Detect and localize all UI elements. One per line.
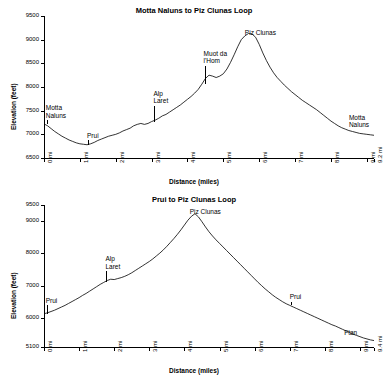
- elevation-profile-line: [44, 205, 374, 348]
- y-tick-label: 9000: [9, 217, 39, 223]
- x-tick-mark: [331, 159, 332, 162]
- y-axis-label: Elevation (feet): [10, 272, 17, 319]
- x-tick-mark: [44, 348, 45, 351]
- x-tick-mark: [152, 159, 153, 162]
- x-tick-mark: [295, 159, 296, 162]
- annotation-leader-line: [47, 120, 48, 124]
- x-tick-mark: [259, 159, 260, 162]
- annotation-leader-line: [205, 66, 206, 84]
- x-tick-mark: [325, 348, 326, 351]
- x-tick-mark: [374, 159, 375, 162]
- annotation-label: Piz Clunas: [190, 208, 221, 216]
- x-tick-mark: [80, 159, 81, 162]
- y-tick-label: 9500: [9, 201, 39, 207]
- annotation-label: Muot dal'Hom: [204, 50, 228, 65]
- x-axis-label: Distance (miles): [14, 367, 374, 374]
- chart-motta-naluns-loop: Motta Naluns to Piz Clunas Loop Elevatio…: [0, 0, 388, 189]
- annotation-leader-line: [154, 106, 155, 122]
- annotation-label: Prui: [87, 132, 99, 140]
- y-tick-label: 6500: [9, 154, 39, 160]
- annotation-label: MottaNaluns: [349, 114, 369, 129]
- x-tick-mark: [290, 348, 291, 351]
- chart-title: Prui to Piz Clunas Loop: [0, 195, 388, 204]
- annotation-label: Prui: [46, 297, 58, 305]
- x-tick-mark: [360, 348, 361, 351]
- x-axis-label: Distance (miles): [14, 178, 374, 185]
- annotation-label: AlpLaret: [105, 255, 120, 270]
- x-tick-mark: [79, 348, 80, 351]
- plot-area: 65007000750080008500900095000 mi1 mi2 mi…: [44, 16, 374, 158]
- y-tick-label: 5100: [9, 343, 39, 349]
- annotation-label: MottaNaluns: [46, 104, 66, 119]
- annotation-label: Ftan: [344, 329, 357, 337]
- x-tick-mark: [184, 348, 185, 351]
- x-tick-mark: [116, 159, 117, 162]
- x-tick-mark: [255, 348, 256, 351]
- annotation-label: Piz Clunas: [245, 29, 276, 37]
- annotation-leader-line: [291, 302, 292, 306]
- y-tick-label: 8000: [9, 249, 39, 255]
- annotation-leader-line: [47, 305, 48, 314]
- chart-title: Motta Naluns to Piz Clunas Loop: [0, 6, 388, 15]
- x-tick-mark: [220, 348, 221, 351]
- y-tick-label: 7500: [9, 107, 39, 113]
- annotation-leader-line: [106, 271, 107, 282]
- plot-area: 5100600070008000900095000 mi1 mi2 mi3 mi…: [44, 205, 374, 347]
- y-tick-label: 8500: [9, 59, 39, 65]
- x-tick-label: 9.4 mi: [377, 336, 383, 352]
- y-tick-label: 8000: [9, 83, 39, 89]
- y-tick-label: 9000: [9, 36, 39, 42]
- y-tick-label: 7000: [9, 130, 39, 136]
- x-tick-mark: [44, 159, 45, 162]
- x-tick-mark: [114, 348, 115, 351]
- annotation-label: AlpLaret: [153, 90, 168, 105]
- x-tick-mark: [187, 159, 188, 162]
- chart-prui-loop: Prui to Piz Clunas Loop Elevation (feet)…: [0, 189, 388, 378]
- y-tick-label: 9500: [9, 12, 39, 18]
- x-tick-mark: [367, 159, 368, 162]
- x-tick-mark: [374, 348, 375, 351]
- x-tick-label: 9.2 mi: [377, 147, 383, 163]
- annotation-leader-line: [88, 140, 89, 144]
- x-tick-mark: [149, 348, 150, 351]
- y-tick-label: 6000: [9, 314, 39, 320]
- x-tick-mark: [223, 159, 224, 162]
- annotation-label: Prui: [290, 293, 302, 301]
- y-tick-label: 7000: [9, 282, 39, 288]
